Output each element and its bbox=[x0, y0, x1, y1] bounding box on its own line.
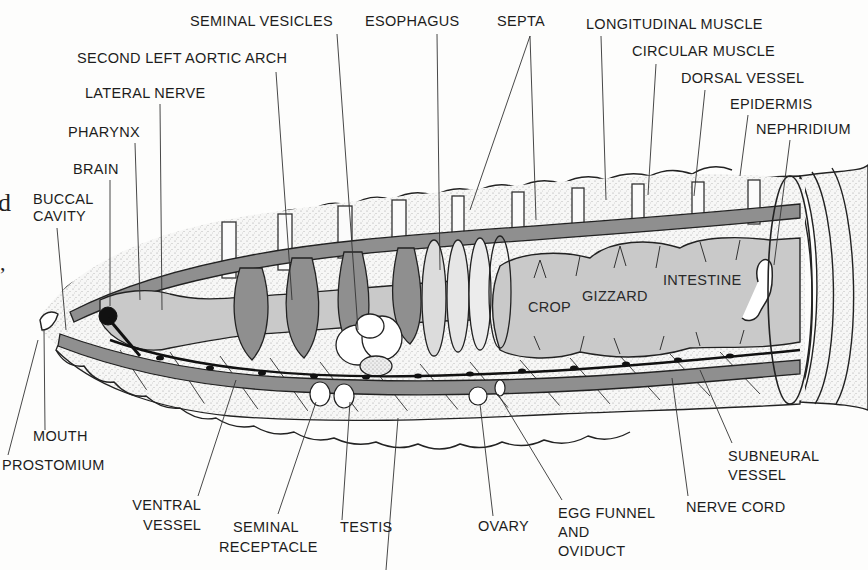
page-edge-fragment: d bbox=[0, 188, 11, 218]
label-ovary: OVARY bbox=[478, 518, 529, 535]
label-second-left-aortic-arch: SECOND LEFT AORTIC ARCH bbox=[77, 50, 287, 67]
label-crop: CROP bbox=[528, 299, 571, 316]
label-circular-muscle: CIRCULAR MUSCLE bbox=[632, 43, 775, 60]
label-gizzard: GIZZARD bbox=[582, 288, 648, 305]
label-ventral-vessel: VENTRAL VESSEL bbox=[125, 497, 201, 534]
label-esophagus: ESOPHAGUS bbox=[365, 13, 460, 30]
label-longitudinal-muscle: LONGITUDINAL MUSCLE bbox=[586, 16, 763, 33]
label-testis: TESTIS bbox=[340, 519, 393, 536]
page-edge-fragment-punct: , bbox=[0, 250, 6, 276]
earthworm-anatomy-diagram: d , SEMINAL VESICLES ESOPHAGUS SEPTA LON… bbox=[0, 0, 868, 570]
label-septa: SEPTA bbox=[497, 13, 545, 30]
label-epidermis: EPIDERMIS bbox=[730, 96, 812, 113]
label-seminal-vesicles: SEMINAL VESICLES bbox=[190, 13, 333, 30]
brain bbox=[99, 307, 117, 325]
label-dorsal-vessel: DORSAL VESSEL bbox=[681, 70, 804, 87]
label-subneural-vessel: SUBNEURAL VESSEL bbox=[728, 448, 819, 484]
label-nephridium: NEPHRIDIUM bbox=[756, 121, 851, 138]
label-lateral-nerve: LATERAL NERVE bbox=[85, 85, 205, 102]
label-intestine: INTESTINE bbox=[663, 272, 741, 289]
label-buccal-cavity: BUCCAL CAVITY bbox=[33, 191, 94, 225]
label-brain: BRAIN bbox=[73, 161, 119, 178]
label-egg-funnel-and-oviduct: EGG FUNNEL AND OVIDUCT bbox=[558, 505, 655, 560]
label-seminal-receptacle: SEMINAL RECEPTACLE bbox=[219, 519, 318, 556]
label-prostomium: PROSTOMIUM bbox=[2, 457, 105, 474]
label-nerve-cord: NERVE CORD bbox=[686, 499, 785, 516]
label-mouth: MOUTH bbox=[33, 428, 88, 445]
label-pharynx: PHARYNX bbox=[68, 124, 140, 141]
